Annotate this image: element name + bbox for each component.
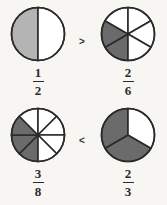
operator-greater-than: > xyxy=(72,32,92,52)
denominator: 2 xyxy=(2,84,74,97)
fraction-label-two-sixths: 2 6 xyxy=(92,66,164,97)
comparison-row-1: 1 2 > 2 6 xyxy=(0,2,167,102)
fraction-bar xyxy=(33,81,44,82)
pie-slice-shaded xyxy=(12,8,39,61)
fraction-cell-two-sixths: 2 6 xyxy=(92,2,164,102)
fraction-bar xyxy=(123,81,134,82)
worksheet-canvas: 1 2 > 2 6 3 8 < xyxy=(0,0,167,205)
fraction-label-two-thirds: 2 3 xyxy=(92,167,164,198)
fraction-bar xyxy=(123,182,134,183)
numerator: 2 xyxy=(92,66,164,79)
pie-circle-one-half xyxy=(9,5,67,63)
numerator: 3 xyxy=(2,167,74,180)
fraction-label-three-eighths: 3 8 xyxy=(2,167,74,198)
fraction-cell-three-eighths: 3 8 xyxy=(2,103,74,203)
pie-svg xyxy=(99,106,157,164)
fraction-cell-two-thirds: 2 3 xyxy=(92,103,164,203)
pie-svg xyxy=(99,5,157,63)
fraction-bar xyxy=(33,182,44,183)
pie-circle-two-sixths xyxy=(99,5,157,63)
numerator: 1 xyxy=(2,66,74,79)
pie-svg xyxy=(9,106,67,164)
fraction-label-one-half: 1 2 xyxy=(2,66,74,97)
pie-circle-three-eighths xyxy=(9,106,67,164)
denominator: 6 xyxy=(92,84,164,97)
pie-slice-unshaded xyxy=(38,8,65,61)
denominator: 8 xyxy=(2,185,74,198)
pie-svg xyxy=(9,5,67,63)
comparison-row-2: 3 8 < 2 3 xyxy=(0,103,167,203)
fraction-cell-one-half: 1 2 xyxy=(2,2,74,102)
numerator: 2 xyxy=(92,167,164,180)
operator-less-than: < xyxy=(72,131,92,151)
denominator: 3 xyxy=(92,185,164,198)
pie-circle-two-thirds xyxy=(99,106,157,164)
